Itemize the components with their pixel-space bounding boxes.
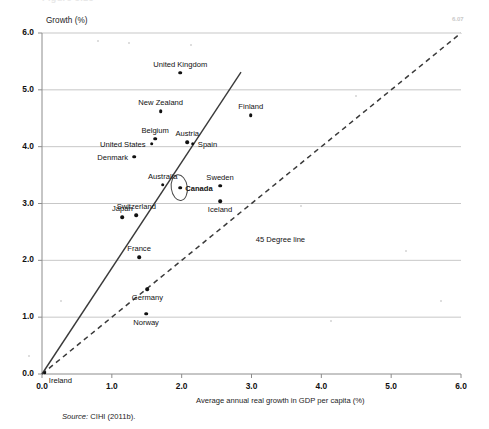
scan-artifact (405, 250, 407, 252)
data-point-marker[interactable] (137, 255, 141, 259)
data-point-marker[interactable] (159, 110, 163, 114)
x-axis-tick-label: 5.0 (371, 381, 411, 391)
scan-artifact (97, 40, 99, 42)
y-axis-tick-label: 1.0 (0, 311, 34, 321)
data-point-marker[interactable] (191, 142, 195, 146)
x-axis-tick-label: 3.0 (232, 381, 272, 391)
data-point-marker[interactable] (178, 71, 182, 75)
y-axis-tick-label: 0.0 (0, 368, 34, 378)
data-point-label: Ireland (49, 375, 72, 384)
data-point-label: Austria (175, 129, 199, 138)
data-point-marker[interactable] (153, 137, 157, 141)
x-axis-tick-label: 2.0 (162, 381, 202, 391)
scan-artifact (190, 44, 192, 46)
data-point-label: Sweden (206, 173, 233, 182)
y-axis-tick-label: 2.0 (0, 254, 34, 264)
data-point-label: France (127, 244, 151, 253)
data-point-label: Canada (185, 183, 212, 192)
data-point-marker[interactable] (185, 140, 189, 144)
data-point-label: Belgium (141, 126, 168, 135)
data-point-marker[interactable] (150, 142, 154, 146)
scan-artifact (128, 42, 130, 44)
y-axis-tick-label: 4.0 (0, 141, 34, 151)
data-point-label: Japan (112, 204, 133, 213)
y-axis-tick-label: 3.0 (0, 198, 34, 208)
y-axis-tick-label: 6.0 (0, 27, 34, 37)
data-point-marker[interactable] (249, 114, 253, 118)
data-point-marker[interactable] (43, 371, 47, 375)
data-point-label: Iceland (208, 205, 233, 214)
x-axis-tick-label: 6.0 (441, 381, 481, 391)
data-point-marker[interactable] (161, 183, 165, 187)
scan-artifact (300, 205, 302, 207)
scan-artifact (440, 300, 442, 302)
data-point-marker[interactable] (121, 215, 125, 219)
x-axis-tick-label: 1.0 (92, 381, 132, 391)
scan-artifact (330, 320, 332, 322)
data-point-label: Spain (198, 139, 217, 148)
data-point-marker[interactable] (178, 186, 182, 190)
y-axis-tick-label: 5.0 (0, 84, 34, 94)
data-point-label: Germany (132, 293, 163, 302)
data-point-label: United Kingdom (153, 60, 207, 69)
data-point-label: United States (100, 139, 146, 148)
plot-overlay: 0.01.02.03.04.05.06.00.01.02.03.04.05.06… (0, 0, 489, 429)
data-point-marker[interactable] (132, 155, 136, 159)
data-point-marker[interactable] (144, 312, 148, 316)
data-point-label: Australia (148, 172, 178, 181)
scan-artifact (60, 300, 62, 302)
data-point-marker[interactable] (134, 214, 138, 218)
scan-artifact (355, 95, 357, 97)
data-point-marker[interactable] (146, 288, 150, 292)
data-point-marker[interactable] (218, 184, 222, 188)
data-point-label: Norway (133, 318, 159, 327)
scan-artifact (28, 355, 30, 357)
figure-container: Figure 3.13 6.07 Growth (%) Average annu… (0, 0, 489, 429)
data-point-label: Finland (238, 102, 263, 111)
data-point-marker[interactable] (218, 199, 222, 203)
data-point-label: New Zealand (138, 98, 183, 107)
data-point-label: Denmark (97, 152, 128, 161)
annotation-45-degree-line: 45 Degree line (256, 235, 305, 244)
x-axis-tick-label: 4.0 (301, 381, 341, 391)
